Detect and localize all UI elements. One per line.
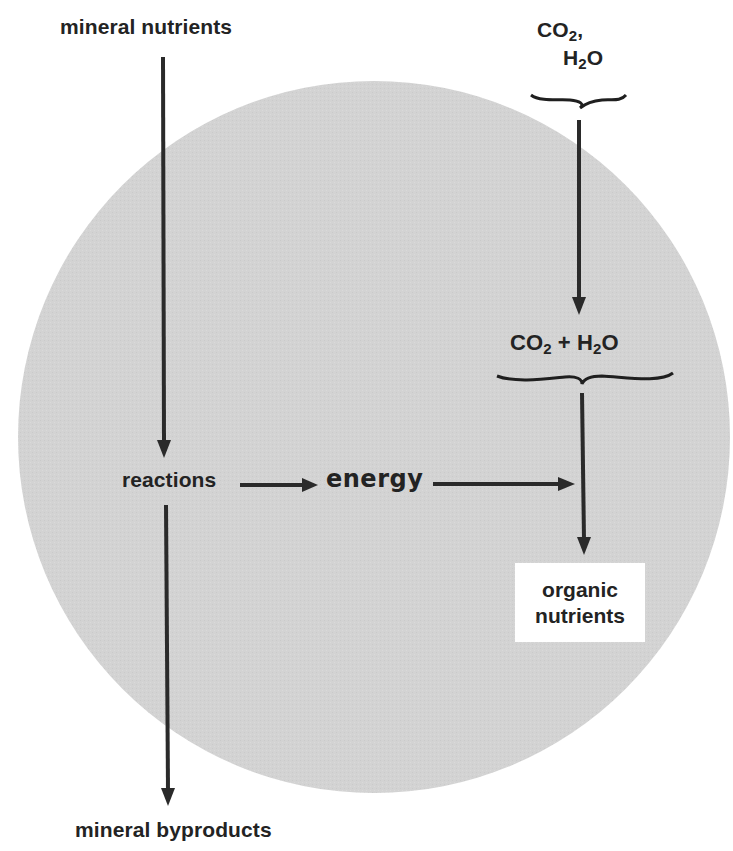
organic-line-1: organic [542, 577, 618, 602]
label-h2o-input: H2O [563, 46, 603, 70]
comma-text: , [577, 18, 583, 41]
label-reactions: reactions [122, 468, 216, 492]
diagram-canvas: mineral nutrients CO2, H2O CO2 + H2O rea… [0, 0, 733, 851]
mid-co2-subscript: 2 [543, 340, 551, 357]
label-co2-input: CO2, [537, 18, 583, 42]
organic-nutrients-box: organic nutrients [515, 563, 645, 642]
diagram-graphics [0, 0, 733, 851]
label-reactions-text: reactions [122, 468, 216, 491]
h2o-subscript: 2 [578, 55, 586, 72]
plus-sign: + [552, 330, 577, 355]
organic-line-2: nutrients [535, 603, 625, 628]
label-mineral-nutrients: mineral nutrients [60, 15, 232, 39]
mid-co2-text: CO [510, 330, 543, 355]
mid-h-text: H [577, 330, 593, 355]
label-energy: energy [326, 466, 423, 494]
cell-circle [18, 81, 730, 793]
label-mineral-byproducts: mineral byproducts [75, 818, 272, 842]
h-text: H [563, 46, 578, 69]
co2-subscript: 2 [569, 27, 577, 44]
co2-text: CO [537, 18, 569, 41]
mid-o-text: O [601, 330, 618, 355]
o-text: O [587, 46, 603, 69]
label-mineral-byproducts-text: mineral byproducts [75, 818, 272, 841]
brace-top-icon [531, 95, 626, 108]
label-energy-text: energy [326, 465, 423, 493]
label-mineral-nutrients-text: mineral nutrients [60, 15, 232, 38]
label-co2-plus-h2o: CO2 + H2O [510, 330, 619, 355]
